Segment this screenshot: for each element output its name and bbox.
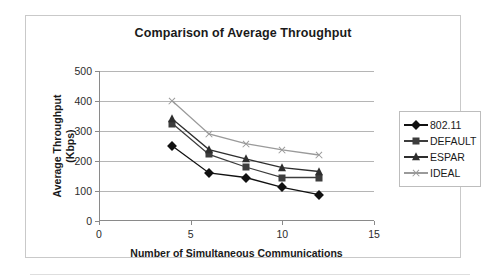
legend-item-802-11[interactable]: 802.11 xyxy=(404,117,477,133)
data-point-marker xyxy=(242,154,250,162)
data-point-marker xyxy=(205,145,213,153)
data-point-marker xyxy=(168,97,177,106)
legend-item-espar[interactable]: ESPAR xyxy=(404,149,477,165)
y-tick-label: 200 xyxy=(52,155,92,167)
data-point-marker xyxy=(315,151,324,160)
legend-item-default[interactable]: DEFAULT xyxy=(404,133,477,149)
x-tick-mark xyxy=(191,221,192,225)
data-point-marker xyxy=(278,163,286,171)
y-axis-title-line1: Average Throughput xyxy=(51,95,63,198)
y-axis-title: Average Throughput (Kbps) xyxy=(54,71,72,221)
data-point-marker xyxy=(241,139,250,148)
x-axis-title: Number of Simultaneous Communications xyxy=(99,247,374,259)
y-tick-label: 300 xyxy=(52,125,92,137)
data-point-marker xyxy=(278,145,287,154)
x-tick-label: 5 xyxy=(188,228,194,240)
x-tick-label: 0 xyxy=(96,228,102,240)
legend-label: 802.11 xyxy=(428,119,461,131)
x-tick-mark xyxy=(374,221,375,225)
y-tick-label: 0 xyxy=(52,215,92,227)
data-point-marker xyxy=(315,167,323,175)
data-point-marker xyxy=(168,114,176,122)
series-lines xyxy=(99,71,374,221)
legend-marker-square-icon xyxy=(413,138,420,145)
chart-frame: Comparison of Average Throughput Average… xyxy=(25,15,461,258)
legend-marker-triangle-icon xyxy=(412,152,420,160)
legend: 802.11DEFAULTESPARIDEAL xyxy=(399,111,481,187)
legend-marker-x-icon xyxy=(412,169,421,178)
data-point-marker xyxy=(242,164,249,171)
chart-title: Comparison of Average Throughput xyxy=(26,26,460,40)
x-tick-label: 15 xyxy=(368,228,380,240)
legend-swatch xyxy=(404,166,428,180)
y-axis-title-text: Average Throughput (Kbps) xyxy=(51,71,76,221)
x-tick-label: 10 xyxy=(276,228,288,240)
x-tick-mark xyxy=(282,221,283,225)
legend-label: ESPAR xyxy=(428,151,465,163)
y-tick-label: 100 xyxy=(52,185,92,197)
legend-swatch xyxy=(404,150,428,164)
legend-item-ideal[interactable]: IDEAL xyxy=(404,165,477,181)
legend-label: IDEAL xyxy=(428,167,460,179)
legend-swatch xyxy=(404,118,428,132)
data-point-marker xyxy=(316,174,323,181)
legend-swatch xyxy=(404,134,428,148)
x-tick-mark xyxy=(99,221,100,225)
legend-marker-diamond-icon xyxy=(411,120,421,130)
data-point-marker xyxy=(205,130,214,139)
data-point-marker xyxy=(279,174,286,181)
plot-area: 0100200300400500 051015 xyxy=(99,71,374,221)
page-divider xyxy=(30,274,470,275)
legend-label: DEFAULT xyxy=(428,135,476,147)
y-tick-label: 500 xyxy=(52,65,92,77)
y-tick-label: 400 xyxy=(52,95,92,107)
